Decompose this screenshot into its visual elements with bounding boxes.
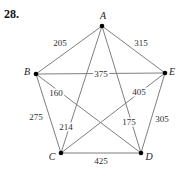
vertex-label-B: B — [24, 67, 30, 77]
edge-weight-B-E: 375 — [93, 70, 109, 79]
vertex-label-E: E — [169, 67, 175, 77]
vertex-dot-D — [139, 151, 144, 156]
edge-weight-A-D: 175 — [121, 118, 137, 127]
vertex-label-D: D — [145, 152, 152, 162]
edge-weight-A-C: 214 — [58, 123, 74, 132]
edge-weight-C-D: 425 — [93, 157, 109, 166]
edge-B-D — [36, 74, 141, 153]
edge-weight-D-E: 305 — [154, 115, 170, 124]
pentagon-graph-drawing — [0, 0, 183, 169]
edge-weight-A-B: 205 — [52, 39, 68, 48]
vertex-label-A: A — [100, 11, 106, 21]
edge-weight-C-E: 405 — [131, 88, 147, 97]
graph-figure: 28. A B C D E 205 315 375 160 405 275 — [0, 0, 183, 169]
vertex-label-C: C — [49, 152, 56, 162]
vertex-dot-C — [59, 151, 64, 156]
edge-weight-B-D: 160 — [48, 89, 64, 98]
edge-A-E — [102, 26, 165, 73]
edge-weight-B-C: 275 — [28, 113, 44, 122]
edge-A-B — [36, 26, 102, 74]
edge-weight-A-E: 315 — [133, 39, 149, 48]
vertex-dot-B — [34, 72, 39, 77]
edge-C-E — [61, 73, 165, 153]
vertex-dot-A — [100, 24, 105, 29]
vertex-dot-E — [163, 71, 168, 76]
